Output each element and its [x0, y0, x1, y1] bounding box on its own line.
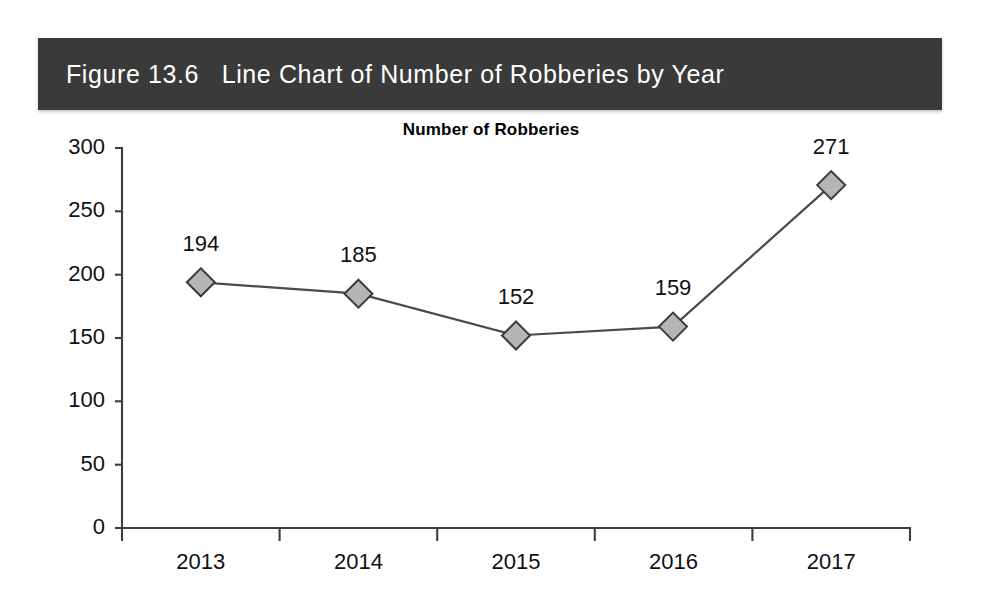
x-tick-label-2013: 2013: [176, 549, 225, 574]
line-chart: Number of Robberies 300 250 200 150 100 …: [0, 112, 982, 608]
x-tick-label-2016: 2016: [649, 549, 698, 574]
y-tick-label-150: 150: [68, 324, 105, 349]
y-tick-label-300: 300: [68, 134, 105, 159]
x-axis-ticks: [122, 528, 910, 541]
y-tick-label-250: 250: [68, 197, 105, 222]
chart-plot-area: 300 250 200 150 100 50 0 2013 2014 2015 …: [0, 112, 982, 608]
data-label-2014: 185: [340, 242, 377, 267]
x-tick-label-2017: 2017: [807, 549, 856, 574]
figure-caption-text: Figure 13.6 Line Chart of Number of Robb…: [38, 60, 724, 89]
y-axis-ticks: 300 250 200 150 100 50 0: [68, 134, 122, 539]
y-tick-label-100: 100: [68, 387, 105, 412]
figure-caption-banner: Figure 13.6 Line Chart of Number of Robb…: [38, 38, 942, 110]
y-tick-label-200: 200: [68, 261, 105, 286]
y-tick-label-0: 0: [93, 514, 105, 539]
data-value-labels: 194 185 152 159 271: [182, 134, 849, 309]
data-point-2015: [502, 322, 530, 350]
data-label-2013: 194: [182, 231, 219, 256]
data-label-2015: 152: [498, 284, 535, 309]
data-point-2014: [344, 280, 372, 308]
x-axis-labels: 2013 2014 2015 2016 2017: [176, 549, 855, 574]
y-tick-label-50: 50: [81, 451, 105, 476]
series-line-robberies: [201, 185, 831, 335]
data-point-2013: [187, 268, 215, 296]
data-label-2017: 271: [813, 134, 850, 159]
x-tick-label-2015: 2015: [492, 549, 541, 574]
data-label-2016: 159: [655, 275, 692, 300]
x-tick-label-2014: 2014: [334, 549, 383, 574]
